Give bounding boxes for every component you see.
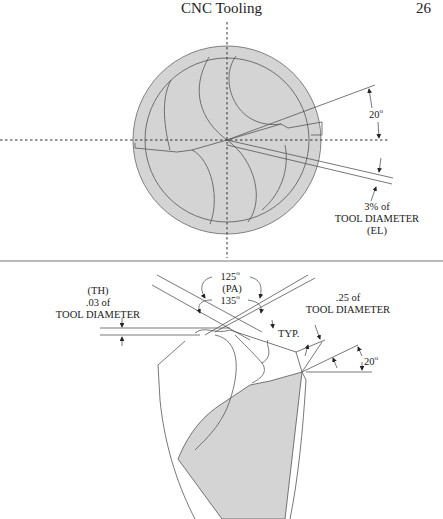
el-label-line2: TOOL DIAMETER bbox=[335, 213, 419, 224]
quarter-label-line1: .25 of bbox=[336, 292, 361, 303]
el-arrow-bottom bbox=[371, 187, 376, 201]
quarter-arrow-2 bbox=[305, 345, 308, 356]
drill-body-shaded bbox=[178, 372, 302, 519]
th-label-line2: .03 of bbox=[86, 297, 111, 308]
th-label-line1: (TH) bbox=[88, 285, 109, 297]
angle-arrow-top bbox=[369, 89, 372, 108]
pa-arc-125-right bbox=[250, 277, 261, 298]
bottom-angle-arrow-1 bbox=[333, 358, 337, 368]
th-label-line3: TOOL DIAMETER bbox=[56, 309, 140, 320]
pa-arc-135-left bbox=[199, 300, 212, 313]
quarter-arrow-1 bbox=[315, 325, 320, 339]
pa-arc-125-left bbox=[202, 277, 212, 298]
el-label-line3: (EL) bbox=[367, 225, 387, 237]
top-angle-label: 20o bbox=[369, 107, 384, 120]
angle-arrow-bottom bbox=[378, 122, 379, 138]
el-arrow-top bbox=[379, 158, 381, 172]
typ-arrow bbox=[272, 320, 273, 328]
drawing-canvas: 20o 3% of TOOL DIAMETER (EL) bbox=[0, 0, 443, 519]
pa-line-1 bbox=[157, 275, 262, 332]
pa-top-value: 125o bbox=[220, 269, 240, 282]
quarter-label-line2: TOOL DIAMETER bbox=[306, 304, 390, 315]
pa-bottom-value: 135o bbox=[220, 293, 240, 306]
typ-label: TYP. bbox=[278, 328, 299, 339]
bottom-angle-line bbox=[302, 345, 358, 372]
lip-typ bbox=[262, 340, 269, 363]
quarter-line-1 bbox=[296, 340, 325, 352]
bottom-angle-arrow-2 bbox=[358, 347, 362, 356]
drill-body-outline bbox=[158, 341, 195, 519]
lip-curve-2 bbox=[235, 335, 264, 383]
bottom-angle-label: 20o bbox=[364, 354, 379, 367]
el-label-line1: 3% of bbox=[364, 201, 390, 212]
